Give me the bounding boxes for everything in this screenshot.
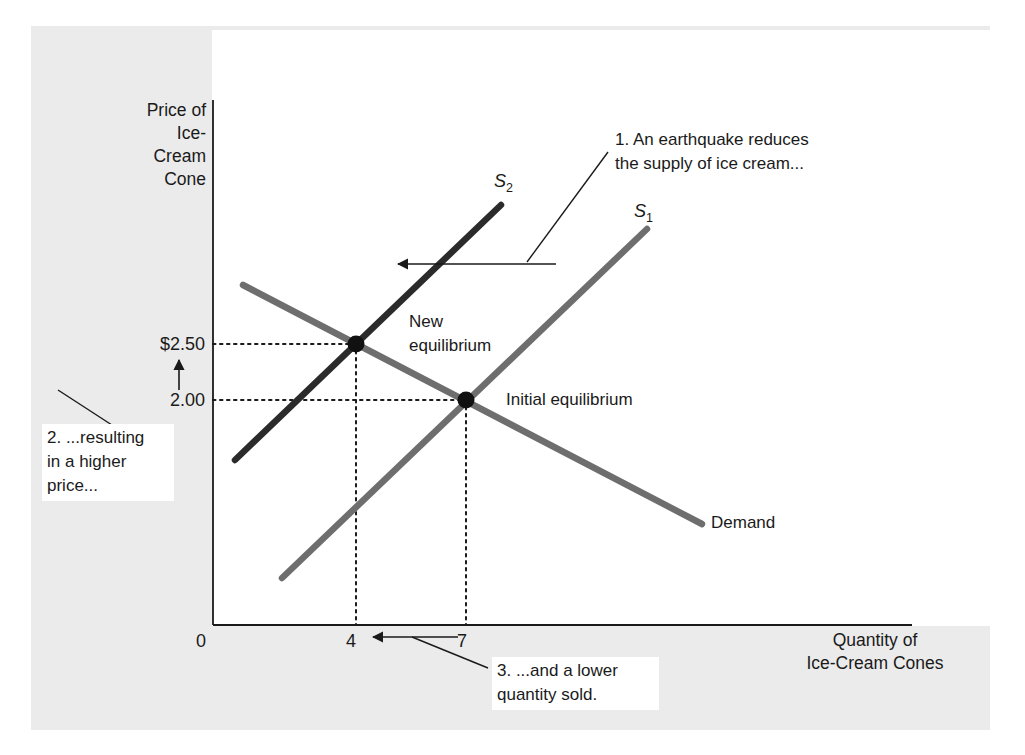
- y-axis-title: Price of Ice-Cream Cone: [128, 99, 206, 191]
- annotation-3-callout: 3. ...and a lower quantity sold.: [492, 657, 659, 710]
- supply-curve-s2-subscript: 2: [506, 181, 513, 195]
- new-equilibrium-label: New equilibrium: [409, 310, 491, 358]
- supply-demand-figure: Price of Ice-Cream Cone Quantity of Ice-…: [0, 0, 1025, 755]
- x-tick-label-4: 4: [346, 630, 356, 654]
- supply-curve-s2-label: S2: [494, 170, 513, 196]
- y-tick-label-250: $2.50: [139, 333, 205, 357]
- annotation-3-leader: [412, 637, 488, 668]
- annotation-1-callout: 1. An earthquake reduces the supply of i…: [610, 126, 814, 179]
- annotation-2-leader: [58, 390, 115, 427]
- demand-curve-label: Demand: [711, 512, 775, 534]
- x-tick-label-7: 7: [457, 630, 467, 654]
- supply-curve-s1-label-text: S: [634, 201, 646, 221]
- new-equilibrium-point: [348, 336, 365, 353]
- initial-equilibrium-point: [458, 392, 475, 409]
- initial-equilibrium-label: Initial equilibrium: [506, 389, 633, 411]
- y-tick-label-200: 2.00: [139, 389, 205, 413]
- annotation-2-callout: 2. ...resulting in a higher price...: [42, 424, 174, 501]
- annotation-1-leader: [527, 152, 608, 262]
- supply-curve-s1-label: S1: [634, 200, 653, 226]
- axis-origin-label: 0: [196, 630, 206, 654]
- x-axis-title: Quantity of Ice-Cream Cones: [782, 629, 968, 675]
- supply-curve-s2-label-text: S: [494, 171, 506, 191]
- supply-curve-s1-subscript: 1: [646, 211, 653, 225]
